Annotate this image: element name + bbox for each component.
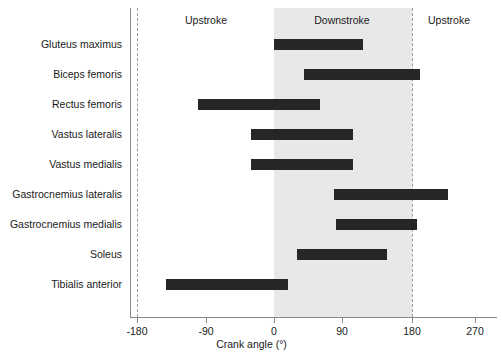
zone-label-downstroke: Downstroke	[314, 14, 369, 26]
table-row: Vastus medialis	[130, 150, 497, 180]
table-row: Rectus femoris	[130, 90, 497, 120]
category-label-vastus-lateralis: Vastus lateralis	[52, 128, 122, 140]
table-row: Gastrocnemius medialis	[130, 210, 497, 240]
x-tick-label-180: 180	[403, 325, 421, 337]
emg-activation-chart: Upstroke Downstroke Upstroke Gluteus max…	[0, 0, 503, 360]
x-tick-label-90: 90	[336, 325, 348, 337]
category-label-tibialis-anterior: Tibialis anterior	[51, 278, 122, 290]
category-label-vastus-medialis: Vastus medialis	[49, 158, 122, 170]
range-bar-gluteus-maximus	[274, 39, 363, 50]
x-tick-270	[475, 318, 476, 323]
x-axis-line	[130, 317, 497, 318]
x-tick-label-minus-180: -180	[126, 325, 147, 337]
category-label-rectus-femoris: Rectus femoris	[52, 98, 122, 110]
x-axis-title: Crank angle (°)	[0, 338, 503, 350]
category-label-biceps-femoris: Biceps femoris	[53, 68, 122, 80]
table-row: Soleus	[130, 240, 497, 270]
zone-label-upstroke-left: Upstroke	[185, 14, 227, 26]
range-bar-soleus	[297, 249, 387, 260]
x-tick-90	[342, 318, 343, 323]
range-bar-vastus-medialis	[251, 159, 353, 170]
range-bar-vastus-lateralis	[251, 129, 353, 140]
zone-label-upstroke-right: Upstroke	[428, 14, 470, 26]
x-tick-0	[274, 318, 275, 323]
range-bar-gastrocnemius-medialis	[336, 219, 417, 230]
category-label-gluteus-maximus: Gluteus maximus	[41, 38, 122, 50]
table-row: Vastus lateralis	[130, 120, 497, 150]
x-tick-180	[412, 318, 413, 323]
category-label-gastrocnemius-medialis: Gastrocnemius medialis	[10, 218, 122, 230]
x-tick-label-0: 0	[271, 325, 277, 337]
x-tick-label-270: 270	[466, 325, 484, 337]
table-row: Tibialis anterior	[130, 270, 497, 300]
x-tick-minus-90	[206, 318, 207, 323]
category-label-soleus: Soleus	[90, 248, 122, 260]
category-label-gastrocnemius-lateralis: Gastrocnemius lateralis	[12, 188, 122, 200]
plot-area: Upstroke Downstroke Upstroke Gluteus max…	[130, 8, 497, 317]
range-bar-gastrocnemius-lateralis	[334, 189, 448, 200]
table-row: Gastrocnemius lateralis	[130, 180, 497, 210]
range-bar-rectus-femoris	[198, 99, 320, 110]
x-tick-label-minus-90: -90	[198, 325, 213, 337]
x-tick-minus-180	[137, 318, 138, 323]
range-bar-biceps-femoris	[304, 69, 420, 80]
range-bar-tibialis-anterior	[166, 279, 288, 290]
table-row: Biceps femoris	[130, 60, 497, 90]
table-row: Gluteus maximus	[130, 30, 497, 60]
